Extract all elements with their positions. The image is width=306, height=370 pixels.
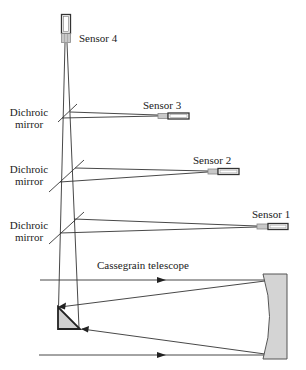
prism-icon — [58, 307, 80, 329]
mirror-label-line1: Dichroic — [4, 163, 54, 175]
dichroic-mirror-1-label: Dichroic mirror — [4, 106, 54, 130]
mirror-label-line1: Dichroic — [4, 219, 54, 231]
mirror-label-line2: mirror — [4, 175, 54, 187]
optical-diagram: Sensor 4 Sensor 3 Sensor 2 Sensor 1 Dich… — [0, 0, 306, 370]
sensor-1-label: Sensor 1 — [252, 208, 290, 220]
reflected-rays — [60, 281, 265, 354]
incoming-ray-top — [40, 277, 265, 283]
sensor-4-icon — [62, 15, 71, 43]
mirror-label-line1: Dichroic — [4, 106, 54, 118]
sensor-4-label: Sensor 4 — [79, 32, 117, 44]
dichroic-mirror-3-label: Dichroic mirror — [4, 219, 54, 243]
arrow-right-icon — [157, 277, 166, 283]
vertical-beams — [59, 43, 80, 328]
sensor-2-label: Sensor 2 — [193, 154, 231, 166]
mirror-label-line2: mirror — [4, 231, 54, 243]
sensor-1-icon — [257, 224, 288, 230]
arrow-left-icon — [81, 326, 89, 333]
primary-mirror-icon — [263, 274, 287, 359]
cassegrain-telescope-label: Cassegrain telescope — [97, 259, 189, 271]
mirror-label-line2: mirror — [4, 118, 54, 130]
dichroic-mirror-2-label: Dichroic mirror — [4, 163, 54, 187]
arrow-right-icon — [157, 352, 166, 358]
sensor-3-icon — [158, 113, 189, 119]
incoming-ray-bottom — [39, 352, 265, 358]
dichroic-mirror-3-icon — [49, 212, 257, 244]
sensor-2-icon — [208, 169, 239, 175]
sensor-3-label: Sensor 3 — [143, 99, 181, 111]
